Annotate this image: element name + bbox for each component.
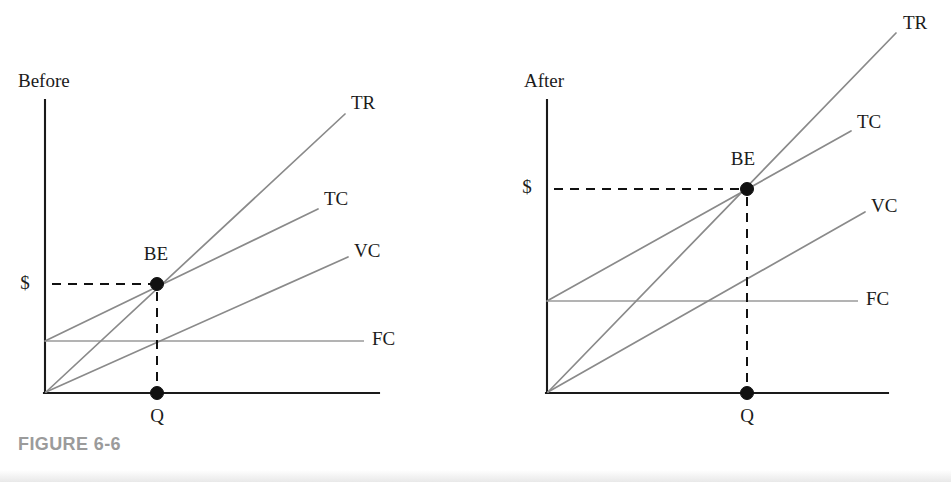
after-vc-label: VC <box>871 195 897 216</box>
after-vc-line <box>548 212 865 392</box>
after-be-label: BE <box>731 148 755 169</box>
panel-after: After BE $ Q TR TC VC <box>522 12 927 426</box>
break-even-diagram: Before BE $ Q TR TC VC <box>0 0 951 482</box>
before-tc-label: TC <box>324 188 348 209</box>
before-q-point <box>151 387 164 400</box>
before-fc-label: FC <box>372 328 395 349</box>
before-tr-line <box>46 114 345 392</box>
before-q-axis-label: Q <box>150 405 164 426</box>
after-tr-line <box>548 33 896 392</box>
before-be-point <box>151 278 164 291</box>
before-vc-line <box>46 257 348 392</box>
before-vc-label: VC <box>354 240 380 261</box>
after-q-point <box>741 387 754 400</box>
before-dollar-axis-label: $ <box>20 272 30 293</box>
after-dollar-axis-label: $ <box>522 176 532 197</box>
panel-before-title: Before <box>18 70 70 91</box>
after-tc-line <box>547 131 851 301</box>
figure-caption: FIGURE 6-6 <box>18 434 121 455</box>
before-be-label: BE <box>144 243 168 264</box>
panel-after-title: After <box>524 70 565 91</box>
panel-before: Before BE $ Q TR TC VC <box>18 70 395 426</box>
figure-container: Before BE $ Q TR TC VC <box>0 0 951 482</box>
after-tc-label: TC <box>857 111 881 132</box>
after-fc-label: FC <box>866 288 889 309</box>
after-be-point <box>741 183 754 196</box>
before-tc-line <box>45 209 318 341</box>
after-q-axis-label: Q <box>740 405 754 426</box>
before-tr-label: TR <box>351 92 376 113</box>
after-tr-label: TR <box>903 12 928 33</box>
page-bottom-artifact <box>0 470 951 482</box>
